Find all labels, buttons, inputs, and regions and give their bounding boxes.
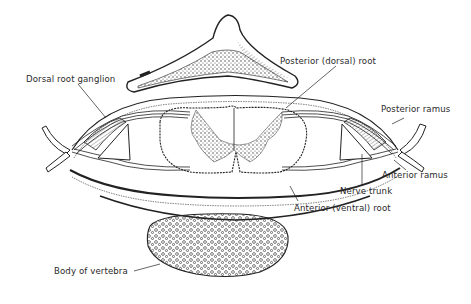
label-nerve-trunk: Nerve trunk xyxy=(340,186,392,196)
spinal-cord xyxy=(160,106,307,173)
label-body-of-vertebra: Body of vertebra xyxy=(54,266,128,276)
diagram-illustration xyxy=(0,0,471,304)
vertebral-arch xyxy=(127,15,298,92)
label-dorsal-root-ganglion: Dorsal root ganglion xyxy=(26,74,115,84)
vertebral-body xyxy=(147,214,288,277)
spinal-nerve-diagram: Dorsal root ganglion Posterior (dorsal) … xyxy=(0,0,471,304)
label-posterior-dorsal-root: Posterior (dorsal) root xyxy=(280,56,376,66)
label-posterior-ramus: Posterior ramus xyxy=(381,104,450,114)
label-anterior-ramus: Anterior ramus xyxy=(382,170,448,180)
label-anterior-ventral-root: Anterior (ventral) root xyxy=(294,203,391,213)
